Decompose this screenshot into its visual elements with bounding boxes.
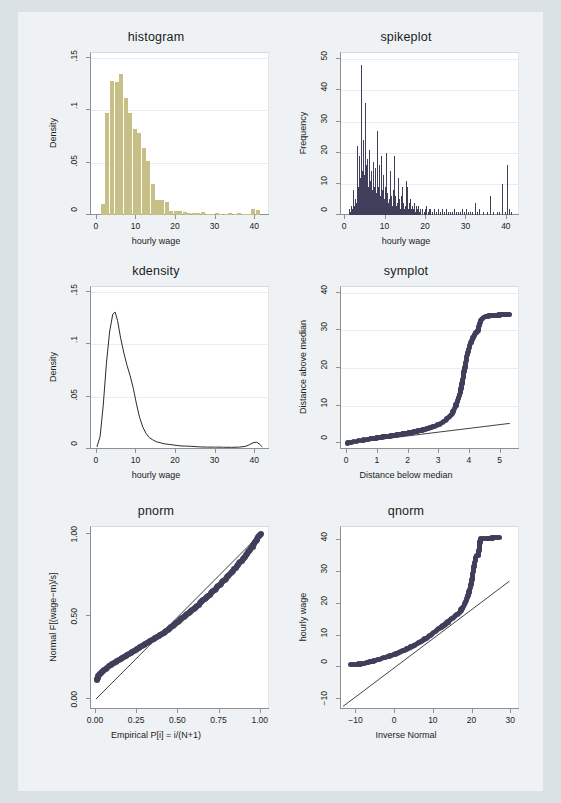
y-tick-label: 0.50	[69, 608, 79, 654]
x-tick-mark	[506, 215, 507, 219]
y-tick-mark	[336, 367, 340, 368]
panel-qnorm: qnorm−10010203040−100102030Inverse Norma…	[286, 504, 526, 754]
x-tick-label: 0.25	[116, 715, 156, 725]
y-tick-label: 1.00	[69, 526, 79, 572]
plot-area-pnorm	[90, 526, 269, 709]
y-tick-mark	[86, 57, 90, 58]
y-axis-label-kdensity: Density	[48, 352, 58, 382]
y-tick-mark	[336, 571, 340, 572]
y-tick-mark	[336, 698, 340, 699]
spike-line	[468, 212, 469, 215]
histogram-bar	[187, 213, 191, 215]
y-tick-label: 40	[319, 285, 329, 331]
x-tick-mark	[500, 449, 501, 453]
x-tick-label: 10	[115, 221, 155, 231]
histogram-bar	[142, 148, 146, 215]
spike-line	[442, 209, 443, 215]
histogram-bar	[128, 113, 132, 215]
spike-line	[502, 184, 503, 215]
x-tick-mark	[394, 709, 395, 713]
panel-title-symplot: symplot	[286, 264, 526, 278]
x-tick-mark	[215, 449, 216, 453]
x-tick-mark	[425, 215, 426, 219]
x-tick-label: 0	[76, 455, 116, 465]
y-tick-mark	[86, 533, 90, 534]
x-tick-label: 0	[374, 715, 414, 725]
histogram-bar	[137, 133, 141, 215]
y-axis-label-histogram: Density	[48, 118, 58, 148]
x-tick-mark	[254, 215, 255, 219]
histogram-bar	[201, 212, 205, 215]
spike-line	[454, 209, 455, 215]
x-tick-mark	[408, 449, 409, 453]
y-tick-mark	[336, 152, 340, 153]
spike-line	[450, 212, 451, 215]
y-tick-mark	[336, 89, 340, 90]
spike-line	[509, 209, 510, 215]
y-tick-mark	[86, 291, 90, 292]
y-tick-label: 50	[319, 51, 329, 97]
x-tick-label: 30	[445, 221, 485, 231]
x-tick-label: 30	[490, 715, 530, 725]
x-axis-label-pnorm: Empirical P[i] = i/(N+1)	[36, 730, 276, 740]
spike-line	[511, 212, 512, 215]
x-tick-label: 5	[480, 455, 520, 465]
y-tick-mark	[86, 162, 90, 163]
spike-line	[438, 209, 439, 215]
y-axis-label-qnorm: hourly wage	[298, 593, 308, 642]
x-tick-label: 10	[365, 221, 405, 231]
x-tick-mark	[346, 449, 347, 453]
data-point	[258, 531, 264, 537]
y-tick-label: .15	[69, 50, 79, 96]
histogram-bar	[256, 210, 260, 215]
plot-area-spikeplot	[340, 52, 519, 215]
histogram-bar	[237, 213, 241, 215]
reference-line-qnorm	[341, 527, 519, 709]
plot-area-histogram	[90, 52, 269, 215]
histogram-bar	[246, 214, 250, 215]
histogram-bar	[124, 98, 128, 215]
plot-area-symplot	[340, 286, 519, 449]
y-tick-mark	[86, 615, 90, 616]
spike-line	[477, 212, 478, 215]
x-tick-mark	[433, 709, 434, 713]
x-tick-label: 30	[195, 455, 235, 465]
y-tick-mark	[336, 58, 340, 59]
kdensity-curve	[91, 287, 269, 449]
x-tick-label: 10	[115, 455, 155, 465]
x-tick-mark	[260, 709, 261, 713]
x-tick-mark	[96, 449, 97, 453]
y-tick-mark	[336, 121, 340, 122]
x-tick-label: 40	[234, 455, 274, 465]
spike-line	[499, 212, 500, 215]
x-axis-label-kdensity: hourly wage	[36, 470, 276, 480]
gridline	[91, 58, 269, 59]
y-tick-mark	[336, 183, 340, 184]
histogram-bar	[196, 213, 200, 215]
histogram-bar	[219, 214, 223, 215]
y-tick-mark	[336, 539, 340, 540]
x-tick-label: 0.50	[157, 715, 197, 725]
histogram-bar	[165, 202, 169, 215]
x-tick-mark	[219, 709, 220, 713]
spike-line	[466, 209, 467, 215]
x-tick-mark	[135, 449, 136, 453]
spike-line	[446, 209, 447, 215]
y-tick-mark	[86, 343, 90, 344]
spike-line	[436, 212, 437, 215]
histogram-bar	[110, 81, 114, 215]
y-tick-label: .1	[69, 102, 79, 148]
histogram-bar	[183, 212, 187, 215]
y-tick-mark	[336, 603, 340, 604]
y-tick-mark	[86, 448, 90, 449]
y-tick-mark	[86, 214, 90, 215]
histogram-bar	[210, 214, 214, 215]
x-tick-mark	[175, 449, 176, 453]
panel-title-kdensity: kdensity	[36, 264, 276, 278]
spike-line	[497, 212, 498, 215]
x-tick-label: 0	[324, 221, 364, 231]
y-tick-label: .15	[69, 284, 79, 330]
y-axis-label-symplot: Distance above median	[298, 320, 308, 414]
y-axis-label-pnorm: Normal F[(wage−m)/s]	[48, 572, 58, 661]
x-tick-mark	[96, 215, 97, 219]
